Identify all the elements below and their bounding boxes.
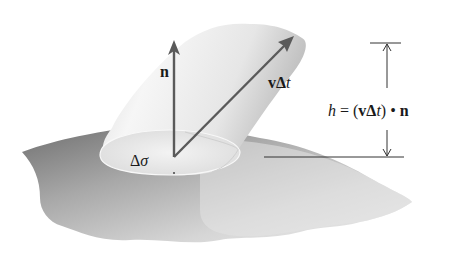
velocity-delta: Δ — [276, 74, 286, 91]
height-eq: = ( — [336, 102, 358, 119]
velocity-v: v — [268, 74, 276, 91]
normal-label: n — [160, 64, 169, 80]
area-label: Δσ — [130, 153, 148, 169]
area-sigma: σ — [140, 152, 148, 169]
height-delta: Δ — [366, 102, 376, 119]
height-n: n — [400, 102, 409, 119]
velocity-t: t — [286, 74, 290, 91]
area-delta: Δ — [130, 152, 140, 169]
velocity-label: vΔt — [268, 75, 290, 91]
base-area — [100, 130, 240, 175]
height-formula: h = (vΔt) • n — [328, 103, 409, 119]
height-h: h — [328, 102, 336, 119]
height-dot: • — [386, 102, 400, 119]
flux-diagram — [0, 0, 467, 257]
